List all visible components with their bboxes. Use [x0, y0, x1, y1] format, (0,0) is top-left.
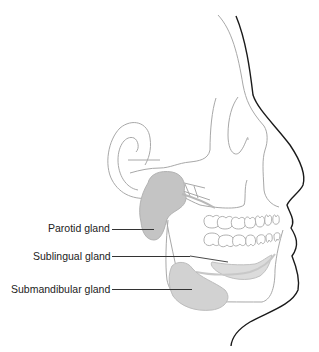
sublingual-gland	[211, 255, 272, 279]
nasal-bone-outline	[130, 98, 216, 173]
label-sublingual-gland: Sublingual gland	[33, 250, 111, 262]
label-parotid-gland: Parotid gland	[48, 222, 110, 234]
leader-line-sublingual	[112, 256, 190, 257]
label-submandibular-gland: Submandibular gland	[11, 283, 110, 295]
leader-line-parotid	[112, 229, 154, 230]
leader-line-submandibular	[112, 289, 192, 290]
teeth	[204, 215, 280, 247]
skull-forehead-outline	[218, 15, 279, 207]
face-profile-outline	[231, 16, 304, 346]
orbit-outline	[228, 97, 248, 154]
salivary-gland-diagram	[0, 0, 319, 352]
